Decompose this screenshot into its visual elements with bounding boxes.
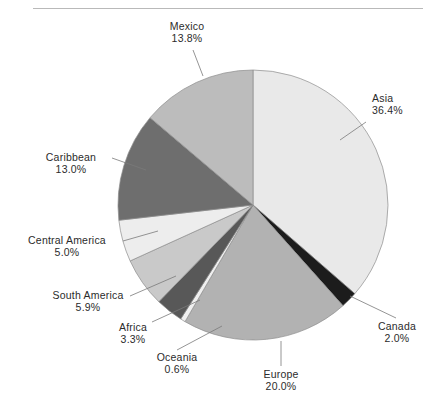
slice-label-africa-value: 3.3% [104, 333, 162, 345]
slice-label-caribbean-value: 13.0% [33, 163, 109, 175]
slice-label-europe: Europe 20.0% [251, 368, 311, 393]
slice-label-oceania: Oceania 0.6% [145, 351, 209, 376]
slice-label-canada-name: Canada [366, 320, 428, 332]
slice-label-oceania-value: 0.6% [145, 363, 209, 375]
slice-label-oceania-name: Oceania [145, 351, 209, 363]
slice-label-central-america-name: Central America [13, 234, 121, 246]
slice-label-africa-name: Africa [104, 321, 162, 333]
slice-label-europe-value: 20.0% [251, 380, 311, 392]
leader-line-mexico [193, 50, 203, 76]
slice-label-central-america-value: 5.0% [13, 246, 121, 258]
pie-slices [118, 70, 388, 340]
slice-label-canada-value: 2.0% [366, 332, 428, 344]
slice-label-mexico-name: Mexico [156, 20, 218, 32]
leader-line-oceania [177, 326, 222, 350]
chart-page: Asia 36.4% Canada 2.0% Europe 20.0% Ocea… [0, 0, 443, 416]
slice-label-europe-name: Europe [251, 368, 311, 380]
slice-label-caribbean: Caribbean 13.0% [33, 151, 109, 176]
slice-label-africa: Africa 3.3% [104, 321, 162, 346]
slice-label-asia-name: Asia [372, 92, 403, 104]
slice-label-asia: Asia 36.4% [372, 92, 403, 117]
slice-label-central-america: Central America 5.0% [13, 234, 121, 259]
slice-label-caribbean-name: Caribbean [33, 151, 109, 163]
slice-label-south-america: South America 5.9% [38, 289, 138, 314]
slice-label-south-america-name: South America [38, 289, 138, 301]
slice-label-asia-value: 36.4% [372, 104, 403, 116]
slice-label-south-america-value: 5.9% [38, 301, 138, 313]
slice-label-mexico-value: 13.8% [156, 32, 218, 44]
slice-label-mexico: Mexico 13.8% [156, 20, 218, 45]
leader-line-canada [350, 296, 396, 318]
slice-label-canada: Canada 2.0% [366, 320, 428, 345]
